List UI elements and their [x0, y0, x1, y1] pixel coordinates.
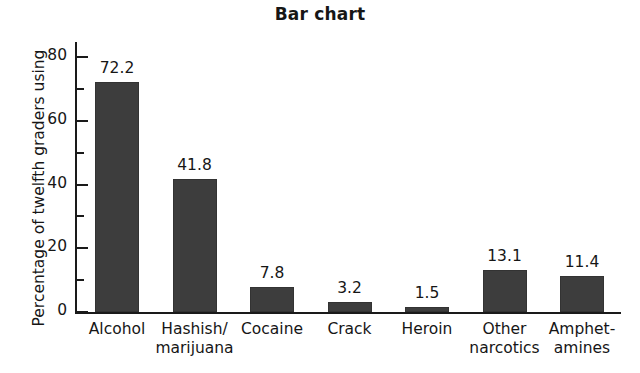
- y-tick-label: 60: [23, 110, 67, 128]
- bar-value-label: 41.8: [159, 156, 231, 174]
- bar: [483, 270, 527, 312]
- y-tick-label: 40: [23, 174, 67, 192]
- y-axis-line: [75, 42, 77, 314]
- x-category-label: Other narcotics: [463, 320, 547, 358]
- bar: [95, 82, 139, 312]
- x-category-label: Cocaine: [230, 320, 314, 339]
- x-category-label: Crack: [308, 320, 392, 339]
- bar: [405, 307, 449, 312]
- bar-value-label: 11.4: [546, 253, 618, 271]
- x-category-label: Amphet- amines: [540, 320, 624, 358]
- bar-value-label: 3.2: [314, 279, 386, 297]
- bar-chart-figure: Bar chart Percentage of twelfth graders …: [0, 0, 640, 373]
- bar-value-label: 13.1: [469, 247, 541, 265]
- bar: [560, 276, 604, 312]
- bar-value-label: 1.5: [391, 284, 463, 302]
- x-category-label: Alcohol: [75, 320, 159, 339]
- y-tick-major: [77, 311, 88, 313]
- y-tick-minor: [77, 152, 84, 154]
- bar-value-label: 72.2: [81, 59, 153, 77]
- x-axis-line: [75, 312, 621, 314]
- y-tick-minor: [77, 279, 84, 281]
- y-tick-minor: [77, 88, 84, 90]
- y-tick-label: 80: [23, 46, 67, 64]
- y-tick-major: [77, 247, 88, 249]
- y-tick-minor: [77, 215, 84, 217]
- y-tick-label: 20: [23, 237, 67, 255]
- bar: [250, 287, 294, 312]
- chart-title: Bar chart: [0, 4, 640, 24]
- bar: [328, 302, 372, 312]
- y-tick-major: [77, 184, 88, 186]
- y-tick-major: [77, 56, 88, 58]
- y-tick-label: 0: [23, 301, 67, 319]
- bar: [173, 179, 217, 312]
- x-category-label: Heroin: [385, 320, 469, 339]
- plot-area: 020406080 72.241.87.83.21.513.111.4 Alco…: [75, 42, 635, 314]
- y-tick-major: [77, 120, 88, 122]
- x-category-label: Hashish/ marijuana: [153, 320, 237, 358]
- bar-value-label: 7.8: [236, 264, 308, 282]
